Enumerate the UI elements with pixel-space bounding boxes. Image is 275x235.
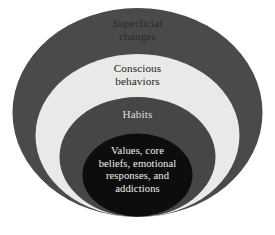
ring-label-superficial: Superficial changes <box>60 17 215 43</box>
ring-label-habits: Habits <box>70 108 205 121</box>
ring-label-core: Values, core beliefs, emotional response… <box>66 145 209 195</box>
nested-circles-diagram: Superficial changes Conscious behaviors … <box>0 0 275 235</box>
ring-label-conscious: Conscious behaviors <box>60 62 215 88</box>
